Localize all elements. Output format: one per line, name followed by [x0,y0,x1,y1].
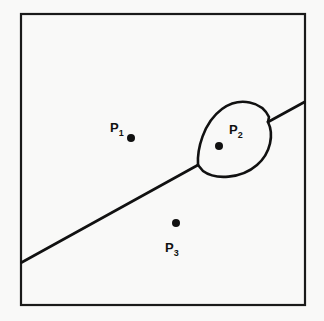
point-dot-p1 [127,134,135,142]
point-dot-p2 [215,142,223,150]
point-label-p3-subscript: 3 [174,248,179,258]
point-label-p1-letter: P [110,120,119,135]
figure-canvas: P1 P2 P3 [0,0,324,321]
point-label-p3: P3 [165,240,179,258]
point-label-p2-letter: P [229,122,238,137]
point-label-p1-subscript: 1 [119,128,124,138]
point-label-p2-subscript: 2 [238,130,243,140]
point-dot-p3 [172,219,180,227]
point-label-p2: P2 [229,122,243,140]
boundary-right-segment [268,102,305,122]
figure-container: P1 P2 P3 [0,0,324,321]
point-label-p1: P1 [110,120,124,138]
point-label-p3-letter: P [165,240,174,255]
